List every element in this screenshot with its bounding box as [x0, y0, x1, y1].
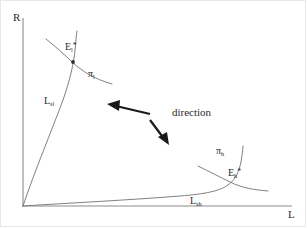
label-pi-low-sub: l: [93, 73, 95, 80]
label-l-sh-sub: sh: [196, 200, 202, 207]
curve-l-sl: [23, 31, 77, 206]
label-l-sl-sub: sl: [50, 100, 54, 107]
tangency-point-e-l: [71, 60, 75, 64]
label-l-sl: Lsl: [44, 96, 54, 107]
label-pi-low: πl: [88, 69, 95, 80]
y-axis-label: R: [13, 12, 20, 23]
direction-arrow-downright-shaft: [150, 120, 162, 136]
x-axis-label: L: [288, 209, 295, 220]
plot-canvas: [0, 0, 307, 228]
direction-label: direction: [172, 107, 211, 118]
label-e-low-star-glyph: *: [73, 41, 77, 50]
label-pi-high: πh: [216, 146, 224, 157]
direction-arrow-upleft-head: [107, 100, 120, 111]
label-e-low-star: El*: [65, 42, 77, 53]
label-l-sh: Lsh: [190, 196, 202, 207]
direction-arrow-upleft-shaft: [116, 106, 150, 114]
label-e-high-star-glyph: *: [237, 167, 241, 176]
economics-diagram-figure: R L El* πl Lsl πh Eh* Lsh direction: [0, 0, 307, 228]
label-e-high-star: Eh*: [228, 168, 241, 179]
curve-pi-l: [46, 39, 112, 84]
label-pi-high-sub: h: [221, 150, 224, 157]
curve-l-sh: [23, 146, 243, 206]
